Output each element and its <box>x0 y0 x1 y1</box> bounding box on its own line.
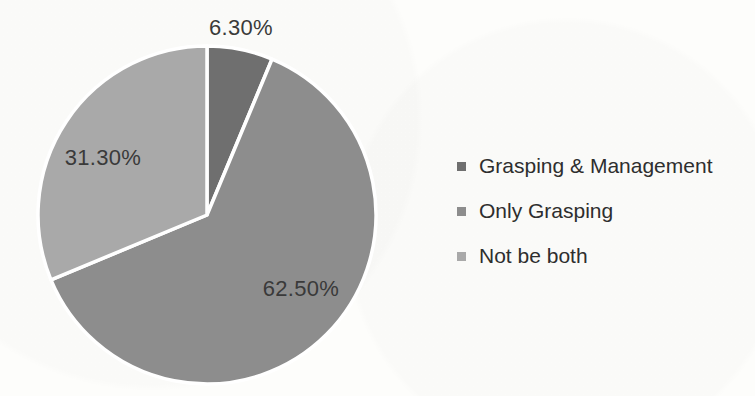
data-label-only-grasping: 62.50% <box>263 276 339 302</box>
legend-square-icon <box>457 207 466 216</box>
legend: Grasping & Management Only Grasping Not … <box>447 153 712 269</box>
data-label-grasping-management: 6.30% <box>209 15 273 41</box>
legend-item-label: Grasping & Management <box>479 154 712 178</box>
legend-item-not-be-both: Not be both <box>447 243 712 269</box>
chart-area: 6.30% 62.50% 31.30% Grasping & Managemen… <box>0 0 755 396</box>
legend-item-grasping-management: Grasping & Management <box>447 153 712 179</box>
pie-slices <box>38 46 376 384</box>
legend-item-only-grasping: Only Grasping <box>447 198 712 224</box>
legend-square-icon <box>457 252 466 261</box>
data-label-not-be-both: 31.30% <box>65 145 141 171</box>
legend-item-label: Only Grasping <box>479 199 613 223</box>
legend-square-icon <box>457 162 466 171</box>
legend-item-label: Not be both <box>479 244 588 268</box>
